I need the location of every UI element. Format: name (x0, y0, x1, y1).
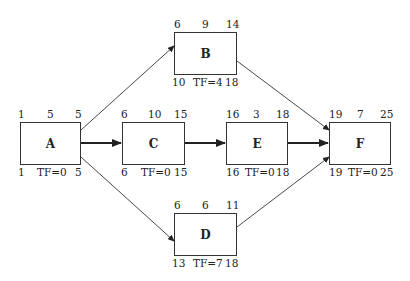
node-d-es: 6 (174, 199, 181, 211)
node-f-duration: 7 (357, 108, 364, 120)
node-d-lf: 18 (225, 257, 238, 269)
node-b-label: B (175, 47, 236, 61)
node-c-total-float: TF=0 (141, 166, 171, 178)
node-c-es: 6 (121, 108, 128, 120)
node-f-lf: 25 (380, 166, 393, 178)
node-b-es: 6 (174, 18, 181, 30)
node-e-duration: 3 (253, 108, 260, 120)
node-d: D (174, 213, 237, 256)
node-f-es: 19 (329, 108, 342, 120)
node-c-ef: 15 (174, 108, 187, 120)
node-f-ls: 19 (329, 166, 342, 178)
node-e-total-float: TF=0 (245, 166, 275, 178)
node-a: A (20, 122, 81, 165)
node-f-total-float: TF=0 (348, 166, 378, 178)
node-d-ef: 11 (226, 199, 239, 211)
node-e-label: E (227, 137, 287, 151)
node-a-es: 1 (18, 108, 25, 120)
node-b-duration: 9 (202, 18, 209, 30)
node-b: B (174, 32, 237, 75)
node-e-lf: 18 (276, 166, 289, 178)
node-c-ls: 6 (121, 166, 128, 178)
node-a-lf: 5 (75, 166, 82, 178)
node-c: C (122, 122, 185, 165)
node-c-duration: 10 (148, 108, 161, 120)
node-a-label: A (21, 137, 80, 151)
node-c-lf: 15 (174, 166, 187, 178)
node-a-total-float: TF=0 (37, 166, 67, 178)
node-d-duration: 6 (202, 199, 209, 211)
node-f-label: F (330, 137, 390, 151)
node-f-ef: 25 (380, 108, 393, 120)
node-b-total-float: TF=4 (193, 76, 223, 88)
node-e-ls: 16 (226, 166, 239, 178)
node-d-ls: 13 (172, 257, 185, 269)
node-c-label: C (123, 137, 184, 151)
node-b-lf: 18 (225, 76, 238, 88)
node-e-ef: 18 (276, 108, 289, 120)
node-b-ef: 14 (226, 18, 239, 30)
node-a-ls: 1 (18, 166, 25, 178)
node-a-ef: 5 (75, 108, 82, 120)
node-d-total-float: TF=7 (193, 257, 223, 269)
node-f: F (329, 122, 391, 165)
node-d-label: D (175, 228, 236, 242)
node-a-duration: 5 (47, 108, 54, 120)
node-e-es: 16 (226, 108, 239, 120)
node-b-ls: 10 (172, 76, 185, 88)
node-e: E (226, 122, 288, 165)
